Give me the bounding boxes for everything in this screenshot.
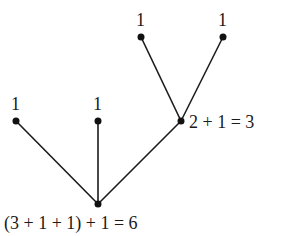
edge-leaf-a-mid: [141, 37, 181, 121]
label-root: (3 + 1 + 1) + 1 = 6: [4, 213, 138, 234]
edge-leaf-c-root: [16, 121, 98, 204]
node-root: [95, 201, 102, 208]
labels: 1 1 1 1 2 + 1 = 3 (3 + 1 + 1) + 1 = 6: [4, 10, 254, 234]
label-leaf-c: 1: [11, 94, 20, 114]
label-leaf-d: 1: [93, 94, 102, 114]
edge-mid-root: [98, 121, 181, 204]
node-leaf-b: [220, 34, 227, 41]
tree-diagram: 1 1 1 1 2 + 1 = 3 (3 + 1 + 1) + 1 = 6: [0, 0, 281, 236]
label-leaf-b: 1: [218, 10, 227, 30]
node-leaf-a: [138, 34, 145, 41]
edge-leaf-b-mid: [181, 37, 223, 121]
node-mid: [178, 118, 185, 125]
label-mid: 2 + 1 = 3: [189, 112, 254, 132]
node-leaf-c: [13, 118, 20, 125]
label-leaf-a: 1: [136, 10, 145, 30]
node-leaf-d: [95, 118, 102, 125]
